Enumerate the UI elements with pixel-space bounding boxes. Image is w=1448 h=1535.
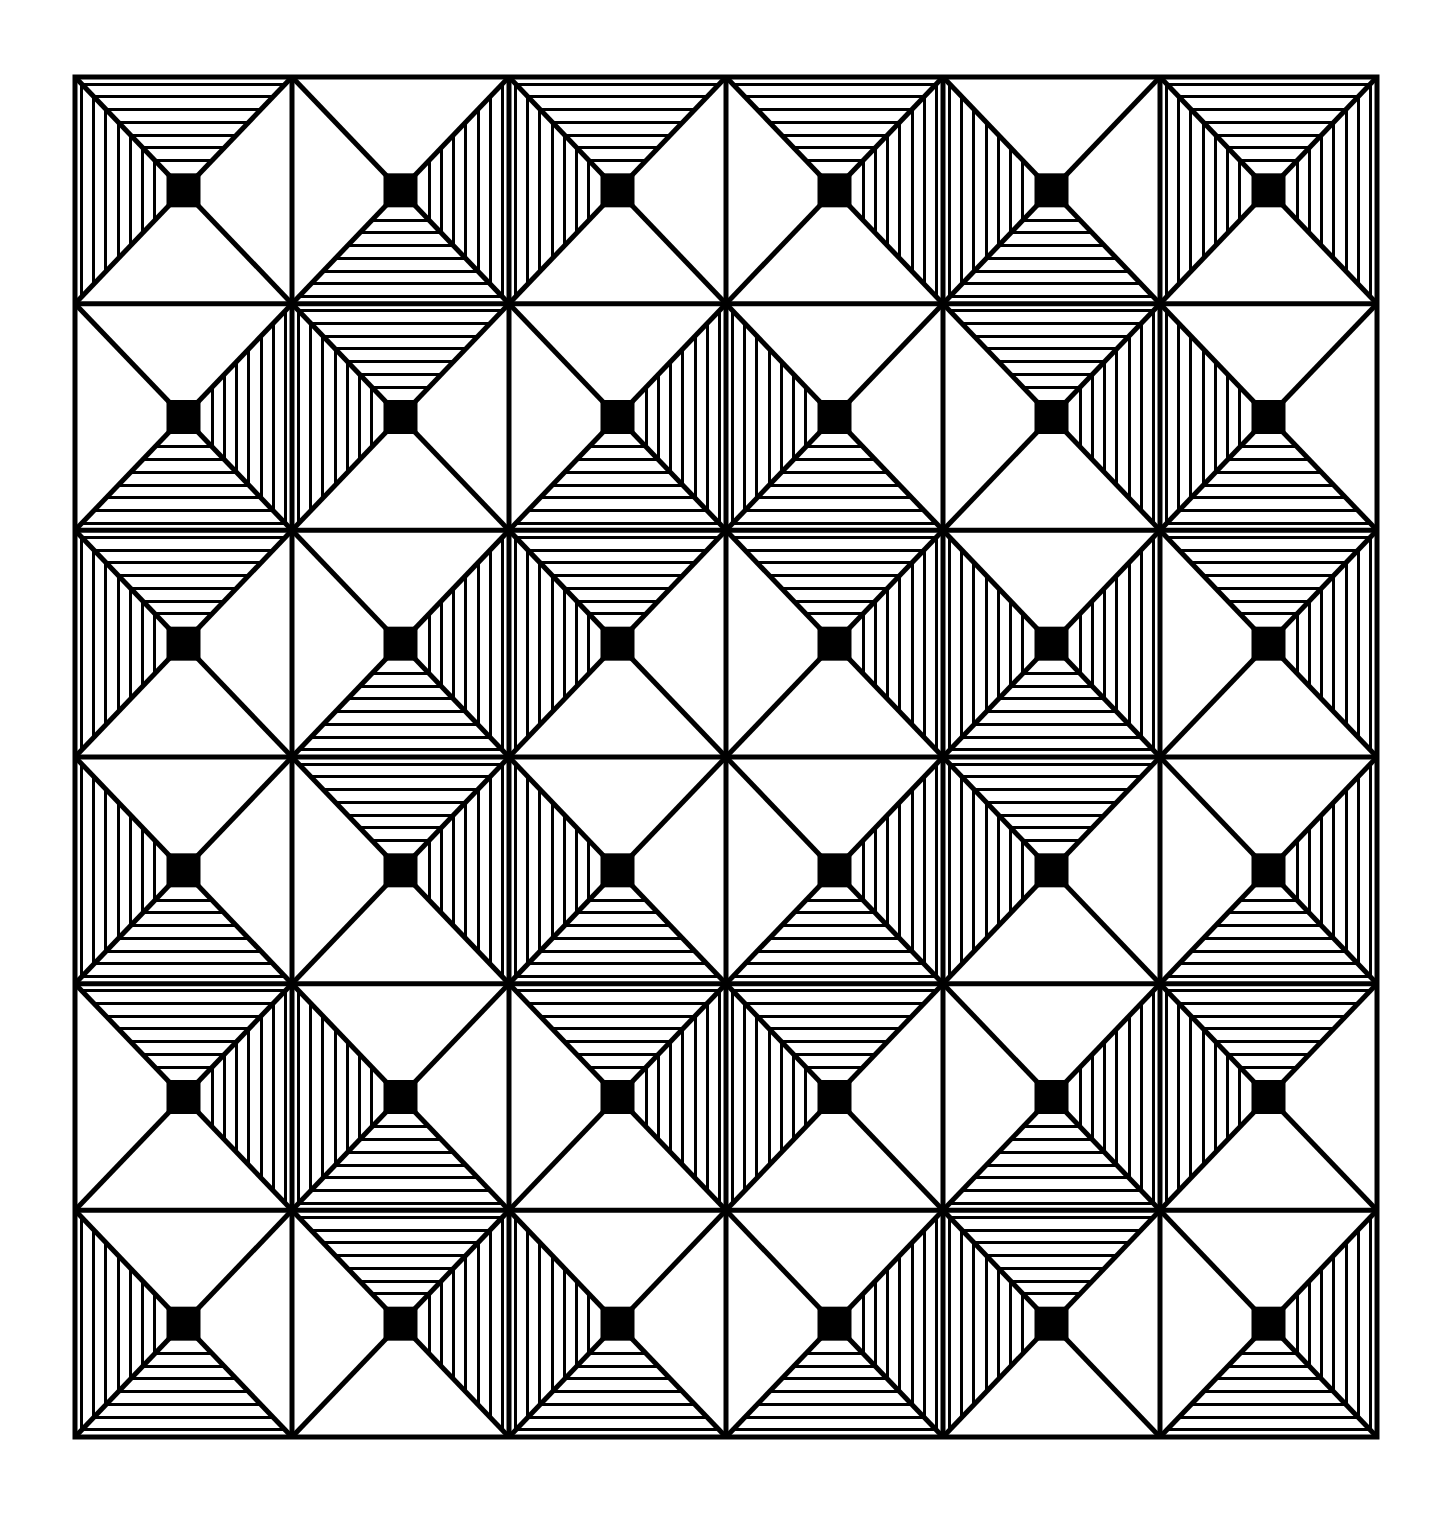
black-center-square: [818, 627, 852, 661]
tile-cell-r5-c5: [943, 984, 1160, 1211]
tile-cell-r3-c3: [509, 530, 726, 757]
tile-cell-r2-c5: [943, 304, 1160, 531]
tile-cell-r3-c2: [292, 530, 509, 757]
tile-cell-r1-c1: [75, 77, 292, 304]
tile-cell-r5-c3: [509, 984, 726, 1211]
tile-cell-r4-c1: [75, 757, 292, 984]
tile-cell-r5-c6: [1160, 984, 1377, 1211]
black-center-square: [384, 627, 418, 661]
tile-cell-r6-c3: [509, 1210, 726, 1437]
black-center-square: [1252, 627, 1286, 661]
black-center-square: [384, 1080, 418, 1114]
tile-cell-r4-c5: [943, 757, 1160, 984]
tile-cell-r1-c4: [726, 77, 943, 304]
tile-cell-r6-c4: [726, 1210, 943, 1437]
tile-cell-r1-c5: [943, 77, 1160, 304]
black-center-square: [818, 1307, 852, 1341]
black-center-square: [818, 1080, 852, 1114]
tile-cell-r4-c6: [1160, 757, 1377, 984]
black-center-square: [601, 173, 635, 207]
tile-cell-r6-c1: [75, 1210, 292, 1437]
geometric-tiling-figure: [0, 0, 1448, 1535]
tile-cell-r3-c6: [1160, 530, 1377, 757]
black-center-square: [1035, 627, 1069, 661]
black-center-square: [1035, 1307, 1069, 1341]
black-center-square: [167, 1307, 201, 1341]
black-center-square: [601, 853, 635, 887]
black-center-square: [601, 400, 635, 434]
tile-cell-r3-c4: [726, 530, 943, 757]
black-center-square: [167, 1080, 201, 1114]
tile-cell-r3-c1: [75, 530, 292, 757]
black-center-square: [818, 173, 852, 207]
black-center-square: [1252, 1080, 1286, 1114]
black-center-square: [167, 627, 201, 661]
tile-cell-r2-c3: [509, 304, 726, 531]
black-center-square: [384, 400, 418, 434]
black-center-square: [1035, 1080, 1069, 1114]
tile-cell-r6-c2: [292, 1210, 509, 1437]
black-center-square: [818, 400, 852, 434]
black-center-square: [167, 173, 201, 207]
black-center-square: [384, 173, 418, 207]
black-center-square: [1252, 853, 1286, 887]
black-center-square: [818, 853, 852, 887]
black-center-square: [1035, 853, 1069, 887]
tile-cell-r3-c5: [943, 530, 1160, 757]
artwork-canvas: [0, 0, 1448, 1535]
black-center-square: [601, 1307, 635, 1341]
black-center-square: [1035, 173, 1069, 207]
tile-cell-r5-c2: [292, 984, 509, 1211]
tile-cell-r5-c4: [726, 984, 943, 1211]
black-center-square: [167, 853, 201, 887]
black-center-square: [167, 400, 201, 434]
tile-cell-r2-c4: [726, 304, 943, 531]
tile-cell-r1-c6: [1160, 77, 1377, 304]
black-center-square: [1252, 400, 1286, 434]
tile-cell-r2-c2: [292, 304, 509, 531]
tile-cell-r1-c2: [292, 77, 509, 304]
black-center-square: [601, 1080, 635, 1114]
black-center-square: [384, 1307, 418, 1341]
black-center-square: [1252, 1307, 1286, 1341]
tile-cell-r2-c6: [1160, 304, 1377, 531]
tile-cell-r5-c1: [75, 984, 292, 1211]
tile-cell-r1-c3: [509, 77, 726, 304]
black-center-square: [1035, 400, 1069, 434]
tile-cell-r6-c6: [1160, 1210, 1377, 1437]
tile-cell-r4-c2: [292, 757, 509, 984]
tile-cell-r6-c5: [943, 1210, 1160, 1437]
tile-cell-r4-c4: [726, 757, 943, 984]
tile-cell-r2-c1: [75, 304, 292, 531]
black-center-square: [1252, 173, 1286, 207]
tile-cell-r4-c3: [509, 757, 726, 984]
black-center-square: [601, 627, 635, 661]
black-center-square: [384, 853, 418, 887]
